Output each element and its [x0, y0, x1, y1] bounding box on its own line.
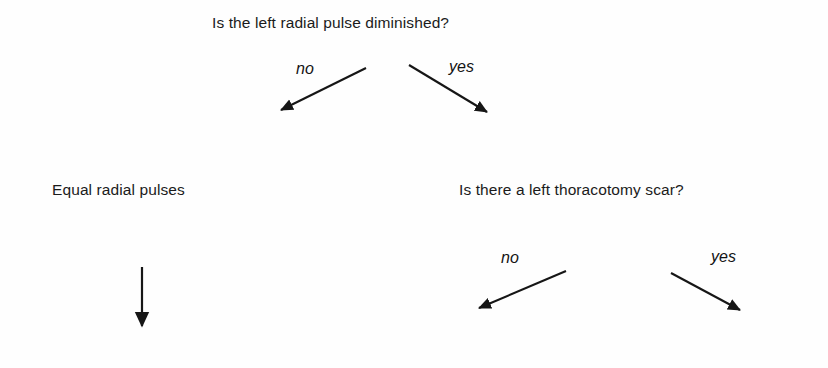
edge-label-root-no: no	[296, 60, 314, 78]
edge-label-root-yes: yes	[449, 58, 474, 76]
edge-root-no	[281, 68, 366, 110]
thoracotomy-question-label: Is there a left thoracotomy scar?	[459, 181, 684, 200]
edge-label-thoracotomy-no: no	[501, 249, 519, 267]
edge-thoracotomy-yes	[671, 273, 740, 310]
edge-label-thoracotomy-yes: yes	[711, 248, 736, 266]
outcome-equal-radial-pulses-label: Equal radial pulses	[52, 181, 185, 200]
edge-root-yes	[409, 65, 487, 112]
edge-thoracotomy-no	[479, 271, 566, 308]
decision-tree-diagram: Is the left radial pulse diminished? Equ…	[0, 0, 828, 368]
root-question-label: Is the left radial pulse diminished?	[212, 14, 449, 33]
